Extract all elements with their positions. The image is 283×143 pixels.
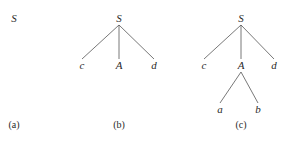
tree-node-c: c	[80, 59, 85, 71]
tree-node-S: S	[11, 12, 17, 24]
tree-node-S: S	[238, 12, 244, 24]
tree-node-d: d	[151, 59, 157, 71]
tree-node-A: A	[115, 59, 123, 71]
tree-c: ScAdab(c)	[202, 12, 278, 131]
tree-caption: (c)	[235, 119, 246, 131]
tree-node-S: S	[116, 12, 122, 24]
tree-edge	[241, 25, 274, 59]
tree-b: ScAd(b)	[80, 12, 158, 131]
tree-a: S(a)	[8, 12, 19, 131]
tree-edge	[119, 25, 154, 59]
parse-tree-diagram: S(a)ScAd(b)ScAdab(c)	[0, 0, 283, 143]
tree-node-a: a	[217, 103, 223, 115]
tree-caption: (a)	[8, 119, 19, 131]
tree-caption: (b)	[113, 119, 125, 131]
tree-node-A: A	[237, 59, 245, 71]
tree-edge	[220, 72, 241, 103]
tree-node-d: d	[271, 59, 277, 71]
tree-node-b: b	[255, 103, 261, 115]
tree-edge	[204, 25, 241, 59]
tree-edge	[241, 72, 258, 103]
tree-node-c: c	[202, 59, 207, 71]
tree-edge	[82, 25, 119, 59]
